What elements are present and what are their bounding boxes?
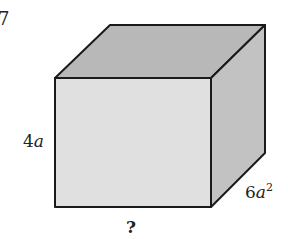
width-label: ? [126,217,136,237]
depth-label: 6a2 [245,181,273,202]
problem-number-fragment: 7 [0,8,9,29]
height-label: 4a [23,131,44,151]
front-face [55,78,211,207]
prism-diagram: 7 4a 6a2 ? [0,0,288,239]
